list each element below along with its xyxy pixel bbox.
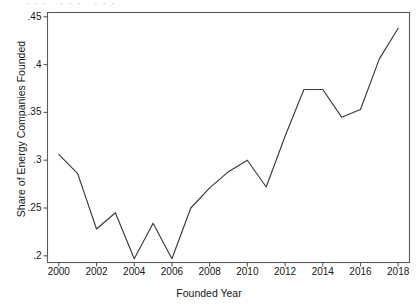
y-tick-label: .25	[8, 203, 42, 213]
y-tick-label: .4	[8, 60, 42, 70]
y-tick-label: .45	[8, 12, 42, 22]
y-tick-label: .3	[8, 155, 42, 165]
y-tick-label: .35	[8, 107, 42, 117]
x-tick-label: 2006	[152, 267, 192, 277]
x-tick-label: 2012	[265, 267, 305, 277]
chart-figure: ··· ··· ··· Share of Energy Companies Fo…	[0, 0, 418, 305]
x-tick-label: 2016	[340, 267, 380, 277]
y-tick-marks	[44, 17, 48, 256]
y-tick-label: .2	[8, 251, 42, 261]
data-series-line	[59, 28, 398, 258]
x-tick-label: 2000	[39, 267, 79, 277]
x-tick-label: 2002	[77, 267, 117, 277]
x-tick-label: 2004	[114, 267, 154, 277]
x-tick-marks	[59, 263, 398, 267]
x-tick-label: 2008	[190, 267, 230, 277]
x-tick-label: 2014	[303, 267, 343, 277]
plot-area	[0, 0, 418, 305]
x-tick-label: 2018	[378, 267, 418, 277]
x-tick-label: 2010	[227, 267, 267, 277]
